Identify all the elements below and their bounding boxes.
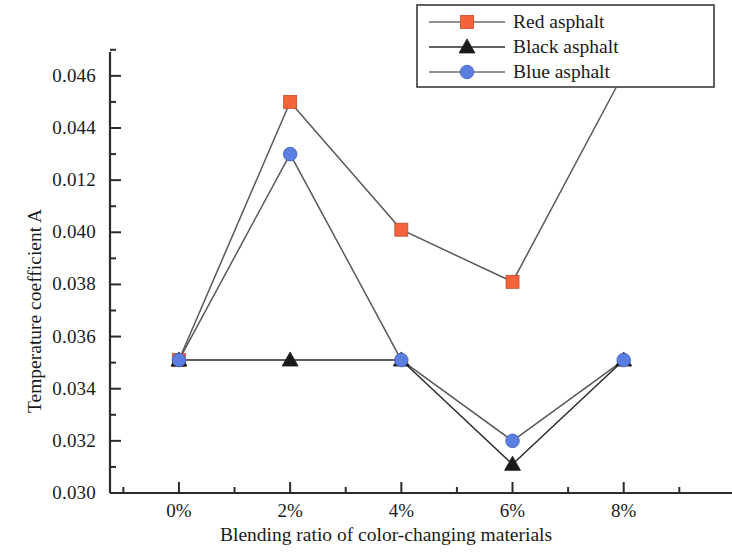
y-tick-label: 0.044 [0, 118, 96, 137]
series-markers-blue-asphalt [172, 147, 630, 447]
x-tick-label: 4% [361, 501, 441, 520]
y-tick-label: 0.040 [0, 222, 96, 241]
y-tick-label: 0.030 [0, 483, 96, 502]
x-tick-label: 0% [139, 501, 219, 520]
y-tick-label: 0.012 [0, 170, 96, 189]
series-markers-black-asphalt [171, 352, 632, 470]
legend-label-blue-asphalt: Blue asphalt [513, 62, 610, 82]
x-tick-label: 6% [473, 501, 553, 520]
y-axis-title: Temperature coefficient A [24, 209, 46, 413]
y-tick-label: 0.038 [0, 274, 96, 293]
series-line-black-asphalt [179, 360, 624, 464]
series-line-red-asphalt [179, 73, 624, 360]
y-tick-label: 0.034 [0, 379, 96, 398]
x-axis-title: Blending ratio of color-changing materia… [166, 524, 606, 546]
x-tick-label: 8% [584, 501, 664, 520]
y-tick-label: 0.036 [0, 327, 96, 346]
legend-label-black-asphalt: Black asphalt [513, 37, 619, 57]
y-tick-label: 0.032 [0, 431, 96, 450]
chart-figure: 0.030 0.032 0.034 0.036 0.038 0.040 0.01… [0, 0, 732, 558]
x-tick-label: 2% [250, 501, 330, 520]
line-chart-plot [0, 0, 732, 558]
legend-label-red-asphalt: Red asphalt [513, 12, 605, 32]
y-tick-label: 0.046 [0, 66, 96, 85]
